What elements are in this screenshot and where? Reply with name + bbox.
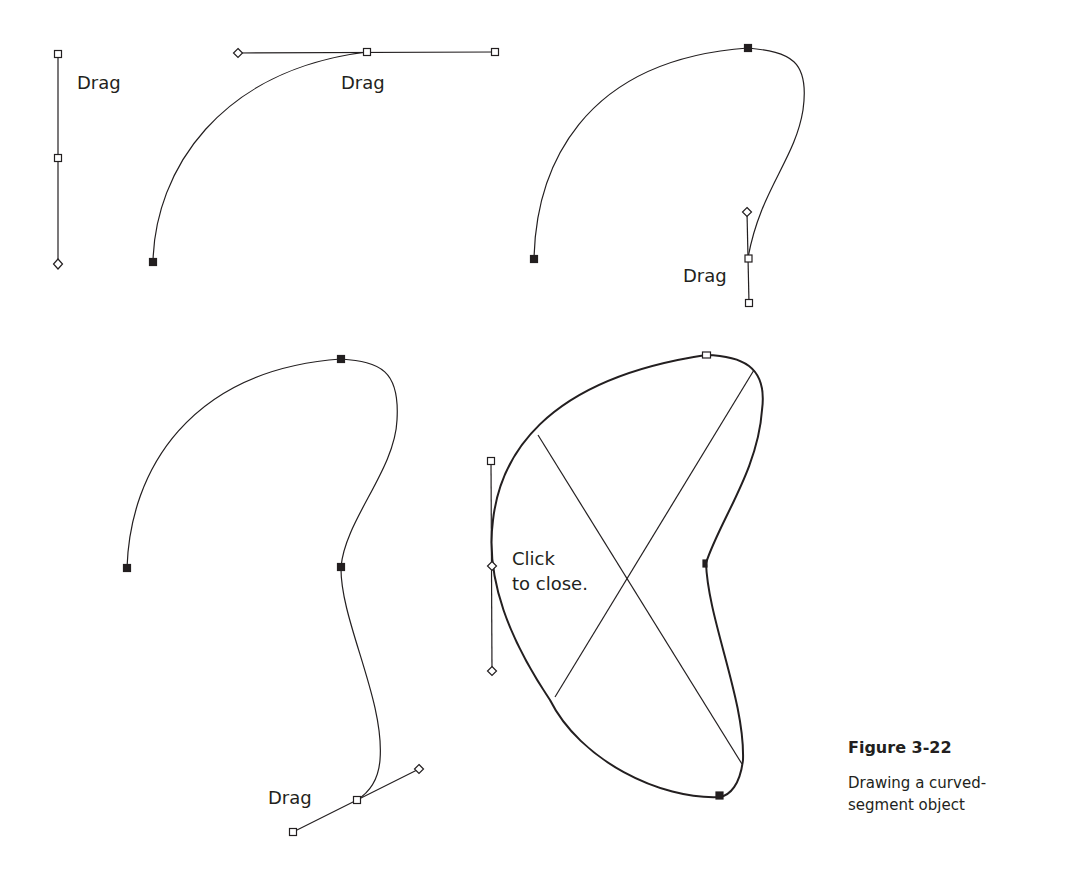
- handle-diamond-icon: [415, 765, 424, 774]
- handle-square-icon: [55, 51, 62, 58]
- step2-drag-label: Drag: [341, 72, 385, 94]
- anchor-point-icon: [531, 256, 538, 263]
- anchor-point-icon: [745, 45, 752, 52]
- step5-click-label: Click: [512, 548, 555, 570]
- handle-diamond-icon: [488, 667, 497, 676]
- handle-square-icon: [703, 352, 711, 358]
- handle-diamond-icon: [54, 259, 63, 269]
- figure-caption: Drawing a curved- segment object: [848, 772, 1048, 816]
- anchor-point-icon: [338, 564, 345, 571]
- step2-curve: [150, 49, 499, 266]
- handle-square-icon: [745, 255, 752, 262]
- anchor-point-icon: [703, 560, 707, 567]
- figure-number: Figure 3-22: [848, 738, 952, 757]
- anchor-point-icon: [124, 565, 131, 572]
- caption-line-2: segment object: [848, 794, 1048, 816]
- step4-drag-label: Drag: [268, 787, 312, 809]
- handle-square-icon: [364, 49, 371, 56]
- handle-square-icon: [290, 829, 297, 836]
- caption-line-1: Drawing a curved-: [848, 772, 1048, 794]
- handle-square-icon: [488, 458, 495, 465]
- step5-close-label: to close.: [512, 573, 588, 595]
- step1-drag-label: Drag: [77, 72, 121, 94]
- step4-curve: [124, 356, 424, 836]
- handle-diamond-icon: [234, 49, 243, 58]
- handle-square-icon: [492, 49, 499, 56]
- handle-square-icon: [746, 300, 753, 307]
- step3-curve: [531, 45, 805, 307]
- anchor-point-icon: [150, 259, 157, 266]
- handle-square-icon: [55, 155, 62, 162]
- anchor-point-icon: [716, 792, 723, 799]
- anchor-point-icon: [338, 356, 345, 363]
- handle-diamond-icon: [743, 208, 752, 217]
- step1-handle: [54, 51, 63, 270]
- handle-diamond-icon: [488, 562, 497, 571]
- handle-square-icon: [354, 797, 361, 804]
- step3-drag-label: Drag: [683, 265, 727, 287]
